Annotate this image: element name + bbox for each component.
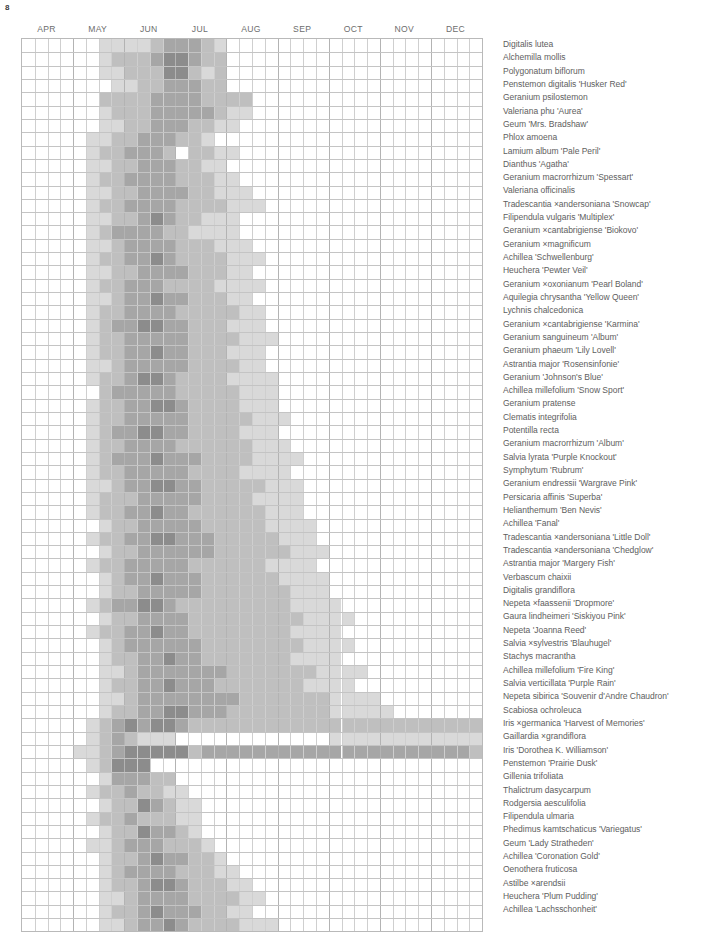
heatmap-cell: [303, 572, 316, 585]
plant-name: Nepeta sibirica 'Souvenir d'Andre Chaudr…: [503, 690, 703, 703]
heatmap-cell: [201, 852, 214, 865]
heatmap-cell: [111, 106, 124, 119]
heatmap-cell: [163, 585, 176, 598]
heatmap-cell: [188, 745, 201, 758]
heatmap-cell: [278, 558, 291, 571]
heatmap-cell: [137, 359, 150, 372]
heatmap-cell: [226, 146, 239, 159]
heatmap-cell: [111, 545, 124, 558]
heatmap-cell: [188, 598, 201, 611]
heatmap-cell: [111, 785, 124, 798]
heatmap-cell: [278, 412, 291, 425]
heatmap-cell: [175, 265, 188, 278]
heatmap-cell: [188, 439, 201, 452]
heatmap-cell: [188, 399, 201, 412]
heatmap-cell: [457, 745, 470, 758]
heatmap-cell: [150, 385, 163, 398]
heatmap-cell: [201, 186, 214, 199]
heatmap-cell: [99, 479, 112, 492]
heatmap-cell: [163, 332, 176, 345]
heatmap-cell: [226, 598, 239, 611]
heatmap-cell: [124, 345, 137, 358]
heatmap-cell: [86, 492, 99, 505]
plant-name: Stachys macrantha: [503, 650, 703, 663]
heatmap-cell: [124, 279, 137, 292]
heatmap-cell: [137, 891, 150, 904]
heatmap-cell: [99, 132, 112, 145]
heatmap-cell: [316, 612, 329, 625]
heatmap-cell: [201, 52, 214, 65]
heatmap-cell: [150, 452, 163, 465]
heatmap-cell: [214, 172, 227, 185]
heatmap-cell: [329, 692, 342, 705]
heatmap-cell: [175, 39, 188, 52]
heatmap-cell: [239, 345, 252, 358]
heatmap-cell: [150, 532, 163, 545]
heatmap-cell: [99, 732, 112, 745]
heatmap-cell: [278, 745, 291, 758]
heatmap-cell: [252, 519, 265, 532]
heatmap-cell: [201, 638, 214, 651]
heatmap-cell: [163, 52, 176, 65]
heatmap-cell: [239, 532, 252, 545]
heatmap-cell: [201, 479, 214, 492]
plant-name: Thalictrum dasycarpum: [503, 784, 703, 797]
heatmap-cell: [163, 705, 176, 718]
heatmap-cell: [226, 225, 239, 238]
heatmap-cell: [252, 452, 265, 465]
heatmap-cell: [188, 212, 201, 225]
heatmap-cell: [137, 718, 150, 731]
heatmap-cell: [137, 412, 150, 425]
heatmap-cell: [239, 385, 252, 398]
grid-line-horizontal: [22, 878, 482, 879]
grid-line-horizontal: [22, 772, 482, 773]
heatmap-cell: [214, 159, 227, 172]
heatmap-cell: [150, 585, 163, 598]
heatmap-cell: [188, 532, 201, 545]
heatmap-cell: [124, 479, 137, 492]
heatmap-cell: [201, 385, 214, 398]
heatmap-cell: [188, 558, 201, 571]
plant-name: Penstemon digitalis 'Husker Red': [503, 78, 703, 91]
heatmap-cell: [99, 572, 112, 585]
heatmap-cell: [137, 265, 150, 278]
heatmap-cell: [86, 345, 99, 358]
heatmap-cell: [226, 119, 239, 132]
heatmap-cell: [214, 332, 227, 345]
heatmap-cell: [150, 212, 163, 225]
heatmap-cell: [226, 186, 239, 199]
plant-name: Tradescantia ×andersoniana 'Snowcap': [503, 198, 703, 211]
heatmap-cell: [226, 252, 239, 265]
plant-name: Gaura lindheimeri 'Siskiyou Pink': [503, 610, 703, 623]
heatmap-cell: [111, 612, 124, 625]
heatmap-cell: [226, 745, 239, 758]
heatmap-cell: [99, 905, 112, 918]
heatmap-cell: [175, 425, 188, 438]
heatmap-cell: [329, 625, 342, 638]
heatmap-cell: [124, 905, 137, 918]
heatmap-cell: [163, 66, 176, 79]
heatmap-cell: [239, 585, 252, 598]
heatmap-cell: [150, 732, 163, 745]
heatmap-cell: [137, 905, 150, 918]
heatmap-cell: [303, 558, 316, 571]
grid-line-horizontal: [22, 319, 482, 320]
heatmap-cell: [99, 172, 112, 185]
heatmap-cell: [137, 545, 150, 558]
heatmap-cell: [150, 918, 163, 931]
heatmap-cell: [86, 439, 99, 452]
heatmap-cell: [124, 825, 137, 838]
heatmap-cell: [239, 705, 252, 718]
heatmap-cell: [239, 292, 252, 305]
heatmap-cell: [278, 585, 291, 598]
grid-line-horizontal: [22, 79, 482, 80]
heatmap-cell: [239, 279, 252, 292]
heatmap-cell: [201, 265, 214, 278]
heatmap-cell: [124, 585, 137, 598]
heatmap-cell: [265, 465, 278, 478]
heatmap-cell: [150, 612, 163, 625]
heatmap-cell: [367, 718, 380, 731]
heatmap-cell: [201, 838, 214, 851]
heatmap-cell: [214, 692, 227, 705]
